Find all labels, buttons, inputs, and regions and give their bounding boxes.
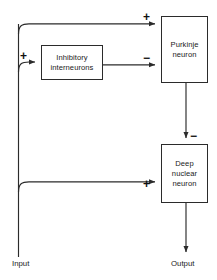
input-to-purkinje-excitatory-line: [19, 24, 156, 34]
input-to-deep-excitatory-line: [19, 182, 156, 192]
sign-purkinje-excitatory: +: [143, 11, 150, 23]
node-purkinje-neuron-label: Purkinje neuron: [171, 40, 199, 60]
node-purkinje-neuron[interactable]: Purkinje neuron: [161, 16, 208, 83]
input-to-interneurons-line: [19, 62, 36, 72]
node-inhibitory-interneurons[interactable]: Inhibitory interneurons: [41, 45, 103, 80]
label-output: Output: [171, 259, 194, 268]
sign-interneuron-excitatory: +: [20, 50, 27, 62]
node-inhibitory-interneurons-label: Inhibitory interneurons: [51, 53, 94, 73]
node-deep-nuclear-neuron[interactable]: Deep nuclear neuron: [161, 144, 208, 203]
sign-deep-inhibitory: −: [190, 130, 197, 142]
diagram-canvas: Purkinje neuron Inhibitory interneurons …: [0, 0, 217, 280]
label-input: Input: [12, 259, 29, 268]
sign-purkinje-inhibitory: −: [143, 52, 150, 64]
sign-deep-excitatory: +: [143, 178, 150, 190]
node-deep-nuclear-neuron-label: Deep nuclear neuron: [172, 159, 197, 189]
